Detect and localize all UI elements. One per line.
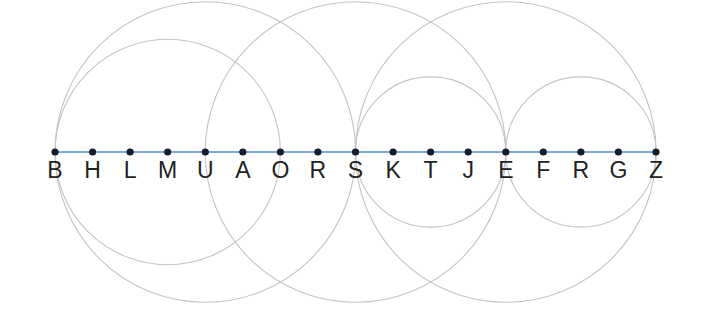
- point-label: B: [47, 157, 62, 183]
- point-label: J: [462, 157, 474, 183]
- point-label: H: [84, 157, 101, 183]
- point-label: F: [536, 157, 550, 183]
- point-label: Z: [649, 157, 663, 183]
- point-label: T: [424, 157, 438, 183]
- point-a: [239, 148, 246, 155]
- diagram-canvas: BHLMUAORSKTJEFRGZ: [0, 0, 701, 318]
- point-g: [615, 148, 622, 155]
- point-e: [502, 148, 509, 155]
- point-u: [202, 148, 209, 155]
- point-m: [164, 148, 171, 155]
- point-s: [352, 148, 359, 155]
- point-label: L: [124, 157, 137, 183]
- point-h: [89, 148, 96, 155]
- point-t: [427, 148, 434, 155]
- point-label: E: [498, 157, 513, 183]
- point-r: [314, 148, 321, 155]
- point-label: K: [385, 157, 401, 183]
- point-label: R: [310, 157, 327, 183]
- point-label: R: [573, 157, 590, 183]
- point-label: O: [271, 157, 289, 183]
- point-label: A: [235, 157, 251, 183]
- labels-group: BHLMUAORSKTJEFRGZ: [47, 157, 663, 183]
- point-l: [127, 148, 134, 155]
- point-o: [277, 148, 284, 155]
- point-label: S: [348, 157, 363, 183]
- point-b: [51, 148, 58, 155]
- point-k: [390, 148, 397, 155]
- point-label: M: [158, 157, 177, 183]
- point-label: G: [609, 157, 627, 183]
- point-z: [652, 148, 659, 155]
- point-r: [577, 148, 584, 155]
- point-label: U: [197, 157, 214, 183]
- point-f: [540, 148, 547, 155]
- point-j: [465, 148, 472, 155]
